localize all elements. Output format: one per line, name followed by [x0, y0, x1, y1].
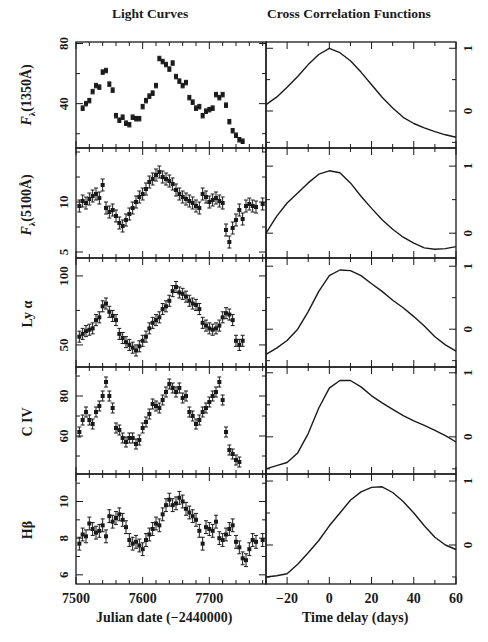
data-point [157, 315, 161, 319]
data-point [254, 205, 258, 209]
y-tick-label: 50 [56, 338, 71, 351]
data-point [141, 547, 145, 551]
data-point [104, 380, 108, 384]
data-point [111, 406, 115, 410]
data-point [167, 67, 171, 71]
y-tick-label: 8 [56, 534, 71, 541]
data-point [217, 380, 221, 384]
data-point [164, 390, 168, 394]
data-point [214, 520, 218, 524]
ccf-y-tick-label: 0 [460, 434, 475, 441]
data-point [221, 201, 225, 205]
ccf-curve [266, 381, 456, 469]
data-point [114, 516, 118, 520]
data-point [197, 105, 201, 109]
data-point [211, 529, 215, 533]
data-point [227, 120, 231, 124]
data-point [144, 99, 148, 103]
data-point [97, 315, 101, 319]
y-tick-label: 60 [56, 430, 71, 443]
ccf-panel-frame [266, 148, 456, 258]
x-tick-label: 20 [365, 591, 379, 606]
data-point [234, 218, 238, 222]
data-point [101, 394, 105, 398]
data-point [237, 545, 241, 549]
data-point [221, 93, 225, 97]
ccf-panel-frame [266, 367, 456, 474]
data-point [121, 115, 125, 119]
data-point [221, 398, 225, 402]
data-point [124, 525, 128, 529]
ccf-panel-frame [266, 258, 456, 367]
data-point [247, 547, 251, 551]
y-tick-label: 6 [56, 571, 71, 578]
data-point [81, 106, 85, 110]
data-point [177, 496, 181, 500]
y-tick-label: 10 [56, 495, 71, 508]
data-point [191, 100, 195, 104]
data-point [91, 326, 95, 330]
data-point [107, 82, 111, 86]
data-point [104, 206, 108, 210]
data-point [104, 69, 108, 73]
ccf-y-tick-label: 0 [460, 230, 475, 237]
data-point [114, 318, 118, 322]
data-point [151, 177, 155, 181]
data-point [174, 188, 178, 192]
ccf-y-tick-label: 1 [460, 370, 475, 377]
data-point [244, 558, 248, 562]
data-point [161, 512, 165, 516]
data-point [97, 85, 101, 89]
y-tick-label: 80 [56, 390, 71, 403]
data-point [137, 544, 141, 548]
data-point [197, 529, 201, 533]
data-point [184, 394, 188, 398]
data-point [187, 511, 191, 515]
data-point [134, 540, 138, 544]
ccf-y-tick-label: 0 [460, 108, 475, 115]
data-point [214, 390, 218, 394]
x-tick-label: 7500 [62, 591, 90, 606]
data-point [224, 430, 228, 434]
y-tick-label: 5 [56, 248, 71, 255]
y-tick-label: 80 [56, 37, 71, 50]
ccf-y-tick-label: 1 [460, 45, 475, 52]
data-point [87, 99, 91, 103]
data-point [161, 398, 165, 402]
data-point [84, 201, 88, 205]
data-point [127, 538, 131, 542]
data-point [141, 105, 145, 109]
data-point [91, 90, 95, 94]
data-point [157, 406, 161, 410]
data-point [177, 386, 181, 390]
data-point [101, 183, 105, 187]
light-curve-panel-frame [76, 42, 266, 148]
data-point [224, 228, 228, 232]
ccf-curve [266, 48, 456, 137]
figure-canvas: 4080015100150100016080016810017500760077… [0, 0, 488, 642]
data-point [137, 438, 141, 442]
data-point [94, 192, 98, 196]
data-point [177, 79, 181, 83]
y-tick-label: 100 [56, 266, 71, 286]
data-point [237, 460, 241, 464]
data-point [197, 307, 201, 311]
data-point [227, 527, 231, 531]
data-point [77, 542, 81, 546]
data-point [101, 523, 105, 527]
data-point [114, 114, 118, 118]
data-point [217, 324, 221, 328]
data-point [84, 534, 88, 538]
data-point [111, 88, 115, 92]
x-tick-label: 60 [449, 591, 463, 606]
data-point [201, 542, 205, 546]
data-point [174, 75, 178, 79]
data-point [231, 318, 235, 322]
data-point [157, 523, 161, 527]
ccf-curve [266, 171, 456, 250]
x-tick-label: 7600 [129, 591, 157, 606]
y-tick-label: 10 [56, 196, 71, 209]
data-point [231, 226, 235, 230]
data-point [144, 420, 148, 424]
data-point [104, 302, 108, 306]
